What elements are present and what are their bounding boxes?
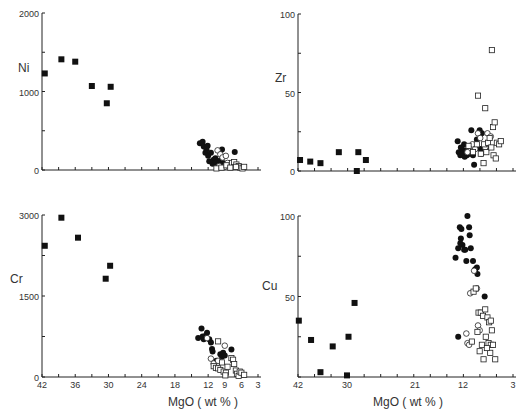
x-axis-label-left: MgO ( wt % ): [168, 395, 238, 409]
y-tick-label: 100: [280, 10, 295, 20]
y-axis-label: Cu: [262, 279, 277, 293]
open-circle-series: [464, 268, 483, 348]
y-tick-label: 1000: [19, 88, 39, 98]
x-tick-label: 6: [239, 380, 244, 390]
filled-square-series: [42, 215, 113, 282]
x-tick-label: 18: [170, 380, 180, 390]
filled-square-series: [297, 149, 369, 174]
cr-vs-mgo-panel: 015003000Cr423630241812963: [10, 211, 261, 390]
y-axis-label: Zr: [275, 71, 286, 85]
x-tick-label: 9: [222, 380, 227, 390]
x-tick-label: 3: [255, 380, 260, 390]
x-tick-label: 42: [37, 380, 47, 390]
x-tick-label: 36: [70, 380, 80, 390]
filled-square-series: [296, 300, 358, 378]
y-tick-label: 100: [280, 212, 295, 222]
y-axis-label: Cr: [10, 272, 23, 286]
y-tick-label: 0: [290, 167, 295, 177]
x-tick-label: 30: [342, 380, 352, 390]
filled-square-series: [42, 56, 114, 106]
x-tick-label: 24: [137, 380, 147, 390]
x-axis-label-right: MgO ( wt % ): [373, 395, 443, 409]
x-tick-label: 30: [103, 380, 113, 390]
cu-vs-mgo-panel: 50100Cu423021123: [262, 212, 516, 390]
y-axis-label: Ni: [18, 61, 29, 75]
y-tick-label: 50: [285, 293, 295, 303]
x-tick-label: 3: [510, 380, 515, 390]
filled-circle-series: [453, 213, 488, 340]
ni-vs-mgo-panel: 010002000Ni: [18, 9, 261, 176]
zr-vs-mgo-panel: 050100Zr: [275, 10, 516, 177]
y-tick-label: 3000: [19, 211, 39, 221]
mgo-variation-figure: 010002000Ni 050100Zr 015003000Cr42363024…: [0, 0, 520, 413]
x-tick-label: 42: [293, 380, 303, 390]
x-tick-label: 12: [203, 380, 213, 390]
x-tick-label: 21: [410, 380, 420, 390]
y-tick-label: 2000: [19, 9, 39, 19]
x-tick-label: 12: [458, 380, 468, 390]
y-tick-label: 1500: [19, 292, 39, 302]
y-tick-label: 50: [285, 89, 295, 99]
y-tick-label: 0: [34, 166, 39, 176]
